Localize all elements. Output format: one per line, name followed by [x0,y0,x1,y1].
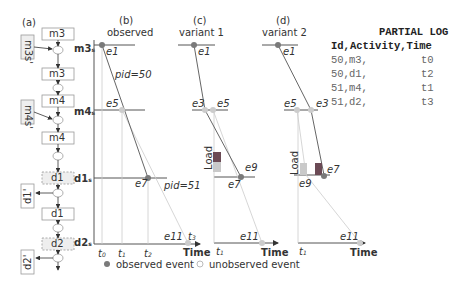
panel-b-label: (b) [119,15,133,26]
svg-text:Load: Load [289,151,300,175]
svg-text:m3s: m3s [74,43,95,54]
svg-text:e9: e9 [299,178,312,189]
svg-text:d1': d1' [22,189,33,204]
svg-text:d2: d2 [51,238,64,249]
x-axis-label-b: Time [183,247,211,258]
svg-text:e1: e1 [283,46,296,57]
legend-observed: observed event [116,259,194,270]
log-row: 50,m3,t0 [331,53,448,67]
svg-text:m4s: m4s [74,106,95,117]
panel-a-label: (a) [22,17,36,28]
svg-text:d2': d2' [22,255,33,270]
svg-text:m3: m3 [49,68,65,79]
svg-text:e5: e5 [284,98,297,109]
svg-text:variant 2: variant 2 [262,27,307,38]
svg-text:e11: e11 [164,231,183,242]
svg-text:t1: t1 [299,246,307,257]
partial-log-title: PARTIAL LOG [331,25,448,39]
log-row: 51,d2,t3 [331,95,448,109]
svg-text:e3: e3 [316,98,329,109]
svg-text:t3: t3 [188,231,196,242]
svg-text:e3: e3 [192,98,205,109]
y-axis-labels: m3s m4s d1s d2s [74,43,95,248]
svg-text:t2: t2 [144,248,152,259]
svg-text:d1: d1 [51,172,64,183]
svg-text:pid=50: pid=50 [114,69,152,80]
partial-log: PARTIAL LOG Id,Activity,Time 50,m3,t0 50… [331,25,448,109]
observed-event-icon [104,261,110,267]
log-row: 50,d1,t2 [331,67,448,81]
svg-text:e11: e11 [340,231,359,242]
svg-text:e11: e11 [240,231,259,242]
svg-text:e5: e5 [217,98,230,109]
svg-text:d1: d1 [51,208,64,219]
svg-text:d1s: d1s [74,173,92,184]
svg-text:m4s': m4s' [23,105,34,129]
svg-text:Time: Time [350,247,378,258]
svg-text:(c): (c) [193,15,206,26]
svg-text:e7: e7 [228,179,241,190]
svg-text:e7: e7 [327,164,340,175]
svg-text:Time: Time [261,247,289,258]
log-row: 51,m4,t1 [331,81,448,95]
svg-text:m4: m4 [49,95,65,106]
svg-text:e1: e1 [106,46,119,57]
svg-text:variant 1: variant 1 [179,27,224,38]
svg-text:Load: Load [203,146,214,170]
svg-text:d2s: d2s [74,237,92,248]
unobserved-event-icon [197,261,203,267]
svg-text:pid=51: pid=51 [163,180,201,191]
svg-text:e1: e1 [198,46,211,57]
legend-unobserved: unobserved event [209,259,300,270]
svg-text:t1: t1 [118,248,126,259]
svg-text:(d): (d) [276,15,290,26]
svg-text:e5: e5 [106,98,119,109]
svg-text:t0: t0 [98,248,106,259]
svg-text:m3s': m3s' [23,40,34,64]
panel-b-title: observed [107,27,153,38]
process-model [21,28,74,274]
svg-text:m4: m4 [49,132,65,143]
svg-text:e7: e7 [135,178,148,189]
partial-log-header: Id,Activity,Time [331,39,448,53]
svg-text:e9: e9 [245,162,258,173]
svg-text:t1: t1 [216,246,224,257]
svg-text:m3: m3 [49,28,65,39]
